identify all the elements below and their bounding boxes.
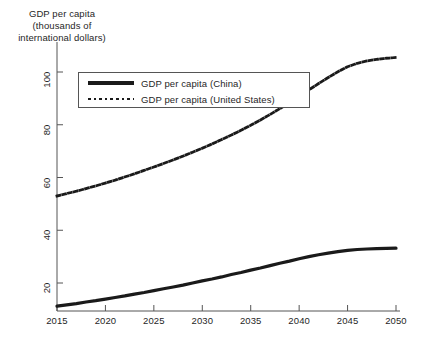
y-tick-label: 80 bbox=[41, 124, 52, 154]
x-tick-label: 2030 bbox=[182, 315, 222, 326]
x-tick-label: 2040 bbox=[279, 315, 319, 326]
legend-item: GDP per capita (China) bbox=[79, 75, 309, 91]
x-tick-label: 2050 bbox=[376, 315, 416, 326]
series-line bbox=[57, 248, 396, 306]
y-tick-label: 100 bbox=[41, 72, 52, 102]
y-tick-label: 60 bbox=[41, 177, 52, 207]
legend-label: GDP per capita (United States) bbox=[141, 94, 275, 105]
legend-label: GDP per capita (China) bbox=[141, 78, 242, 89]
x-tick-label: 2015 bbox=[37, 315, 77, 326]
y-tick-label: 20 bbox=[41, 283, 52, 313]
chart-legend: GDP per capita (China) GDP per capita (U… bbox=[78, 72, 310, 108]
y-tick-label: 40 bbox=[41, 230, 52, 260]
plot-area bbox=[0, 0, 421, 342]
x-tick-label: 2020 bbox=[85, 315, 125, 326]
x-tick-label: 2045 bbox=[328, 315, 368, 326]
legend-swatch-dotted-icon bbox=[88, 93, 134, 105]
chart-figure: GDP per capita (thousands of internation… bbox=[0, 0, 421, 342]
legend-swatch-solid-icon bbox=[88, 77, 134, 89]
x-tick-label: 2035 bbox=[231, 315, 271, 326]
legend-item: GDP per capita (United States) bbox=[79, 91, 309, 107]
x-tick-label: 2025 bbox=[134, 315, 174, 326]
